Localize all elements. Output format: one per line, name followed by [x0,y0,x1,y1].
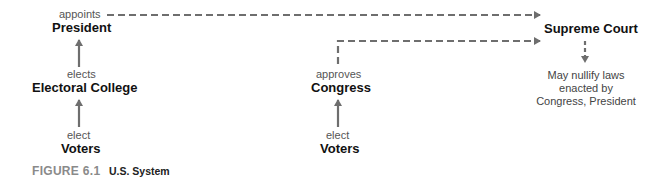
president-node: President [52,20,111,35]
supreme-court-node: Supreme Court [544,21,638,36]
appoints-label: appoints [59,8,101,20]
figure-title: U.S. System [109,165,170,177]
approves-label: approves [316,68,361,80]
figure-number: FIGURE 6.1 [32,164,100,178]
elects-label: elects [67,68,96,80]
elect-label-middle: elect [326,129,349,141]
congress-node: Congress [311,80,371,95]
electoral-college-node: Electoral College [32,80,137,95]
elect-label-left: elect [67,129,90,141]
voters-node-middle: Voters [320,141,360,156]
voters-node-left: Voters [61,141,101,156]
supreme-court-note: May nullify laws enacted by Congress, Pr… [533,69,639,108]
